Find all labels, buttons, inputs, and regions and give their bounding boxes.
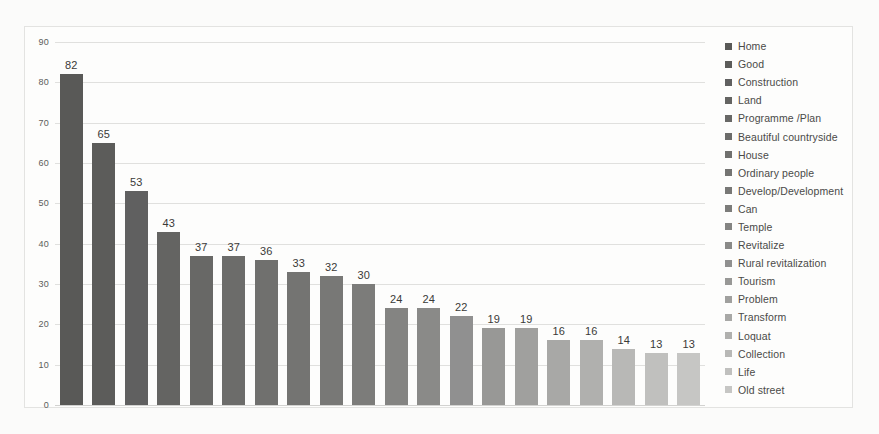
y-axis-tick-label: 70 [39,118,49,128]
bar[interactable]: 37 [190,256,213,405]
legend-swatch-icon [725,242,732,249]
gridline [55,405,705,406]
bar[interactable]: 16 [547,340,570,405]
legend-swatch-icon [725,314,732,321]
gridline [55,284,705,285]
bar-value-label: 53 [130,176,142,188]
legend-item-label: Life [738,366,755,378]
legend-item-label: Temple [738,221,772,233]
legend-item-label: Can [738,203,758,215]
bar-value-label: 43 [163,217,175,229]
legend-swatch-icon [725,205,732,212]
legend-swatch-icon [725,223,732,230]
legend-item[interactable]: Life [725,363,875,381]
legend-item-label: Programme /Plan [738,112,821,124]
y-axis-tick-label: 90 [39,37,49,47]
legend-swatch-icon [725,151,732,158]
legend-swatch-icon [725,368,732,375]
bar-value-label: 16 [553,325,565,337]
y-axis-tick-label: 40 [39,239,49,249]
bar[interactable]: 19 [482,328,505,405]
gridline [55,163,705,164]
bar-value-label: 13 [683,338,695,350]
legend-item[interactable]: Programme /Plan [725,109,875,127]
bar-value-label: 37 [195,241,207,253]
legend-item[interactable]: Old street [725,381,875,399]
gridline [55,42,705,43]
legend-item[interactable]: Tourism [725,272,875,290]
bar[interactable]: 32 [320,276,343,405]
legend-item-label: Home [738,40,766,52]
bar[interactable]: 14 [612,349,635,405]
y-axis-tick-label: 60 [39,158,49,168]
bar[interactable]: 13 [645,353,668,405]
legend-item[interactable]: Beautiful countryside [725,127,875,145]
bar[interactable]: 24 [417,308,440,405]
bar[interactable]: 53 [125,191,148,405]
legend-swatch-icon [725,296,732,303]
legend-swatch-icon [725,61,732,68]
bar-value-label: 24 [390,293,402,305]
y-axis-tick-label: 30 [39,279,49,289]
bar-value-label: 13 [650,338,662,350]
legend-swatch-icon [725,133,732,140]
bar-value-label: 24 [423,293,435,305]
legend-item-label: Good [738,58,764,70]
legend-item-label: Revitalize [738,239,785,251]
bar-value-label: 14 [618,334,630,346]
legend-item[interactable]: Transform [725,308,875,326]
legend-item-label: Develop/Development [738,185,843,197]
bar[interactable]: 13 [677,353,700,405]
legend-swatch-icon [725,332,732,339]
legend-item[interactable]: Collection [725,345,875,363]
bar-value-label: 65 [98,128,110,140]
legend-swatch-icon [725,169,732,176]
y-axis-tick-label: 10 [39,360,49,370]
legend-item[interactable]: Home [725,37,875,55]
legend-item[interactable]: Loquat [725,327,875,345]
chart-container: 9080706050403020100 82655343373736333230… [24,26,853,408]
legend-item[interactable]: Problem [725,290,875,308]
bar[interactable]: 65 [92,143,115,405]
legend-item[interactable]: Temple [725,218,875,236]
bar[interactable]: 30 [352,284,375,405]
bar[interactable]: 19 [515,328,538,405]
legend-item[interactable]: Rural revitalization [725,254,875,272]
legend-swatch-icon [725,79,732,86]
legend-item[interactable]: Good [725,55,875,73]
gridline [55,123,705,124]
legend-item-label: Ordinary people [738,167,814,179]
legend-swatch-icon [725,97,732,104]
legend-swatch-icon [725,260,732,267]
bar-value-label: 82 [65,59,77,71]
legend-item-label: Tourism [738,275,775,287]
bar-value-label: 33 [293,257,305,269]
legend-item-label: Construction [738,76,798,88]
legend-item[interactable]: Ordinary people [725,164,875,182]
bar[interactable]: 36 [255,260,278,405]
legend-item[interactable]: Develop/Development [725,182,875,200]
bar-value-label: 16 [585,325,597,337]
bar-value-label: 19 [520,313,532,325]
bar[interactable]: 82 [60,74,83,405]
legend-item[interactable]: House [725,146,875,164]
gridline [55,203,705,204]
gridline [55,82,705,83]
legend-item-label: Old street [738,384,785,396]
chart-legend: HomeGoodConstructionLandProgramme /PlanB… [725,37,875,399]
bar-value-label: 32 [325,261,337,273]
gridline [55,244,705,245]
bar[interactable]: 37 [222,256,245,405]
legend-item[interactable]: Construction [725,73,875,91]
bar[interactable]: 33 [287,272,310,405]
legend-item[interactable]: Revitalize [725,236,875,254]
y-axis-tick-label: 0 [44,400,49,410]
bar[interactable]: 24 [385,308,408,405]
legend-item[interactable]: Land [725,91,875,109]
legend-item-label: Beautiful countryside [738,131,838,143]
bar[interactable]: 22 [450,316,473,405]
bar[interactable]: 16 [580,340,603,405]
bar[interactable]: 43 [157,232,180,405]
legend-item[interactable]: Can [725,200,875,218]
plot-area: 9080706050403020100 82655343373736333230… [55,42,705,405]
